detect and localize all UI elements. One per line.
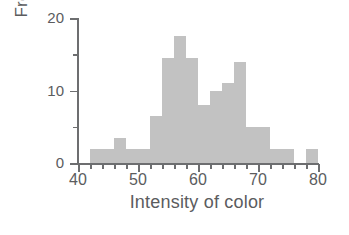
x-tick-minor: [150, 164, 152, 169]
histogram-bar: [306, 149, 318, 164]
histogram-bar: [162, 58, 174, 163]
y-tick-minor: [73, 54, 77, 56]
x-axis-label: Intensity of color: [62, 192, 332, 213]
x-tick-minor: [126, 164, 128, 169]
histogram-bar: [282, 149, 294, 164]
x-tick-minor: [174, 164, 176, 169]
y-tick-label: 20: [36, 10, 64, 25]
x-tick-minor: [90, 164, 92, 169]
histogram-bar: [246, 127, 258, 163]
histogram-bar: [270, 149, 282, 164]
histogram-bar: [258, 127, 270, 163]
x-tick-minor: [210, 164, 212, 169]
histogram-bar: [222, 83, 234, 163]
histogram-bars: [78, 18, 318, 163]
y-tick-major: [70, 163, 77, 165]
x-tick-minor: [222, 164, 224, 169]
y-tick-minor: [73, 127, 77, 129]
histogram-bar: [114, 138, 126, 163]
x-tick-label: 80: [298, 172, 338, 188]
histogram-bar: [234, 62, 246, 164]
histogram-figure: Frequency (%) 01020 4050607080 Intensity…: [0, 0, 349, 235]
histogram-bar: [126, 149, 138, 164]
histogram-bar: [186, 58, 198, 163]
y-tick-label: 10: [36, 83, 64, 98]
x-tick-label: 70: [238, 172, 278, 188]
x-tick-label: 60: [178, 172, 218, 188]
histogram-bar: [102, 149, 114, 164]
x-tick-minor: [102, 164, 104, 169]
histogram-bar: [210, 91, 222, 164]
y-tick-major: [70, 18, 77, 20]
y-tick-major: [70, 91, 77, 93]
histogram-bar: [174, 36, 186, 163]
x-tick-minor: [246, 164, 248, 169]
y-tick-label: 0: [36, 155, 64, 170]
histogram-bar: [150, 116, 162, 163]
x-tick-minor: [114, 164, 116, 169]
histogram-bar: [90, 149, 102, 164]
histogram-bar: [138, 149, 150, 164]
y-axis-label-container: Frequency (%): [2, 8, 36, 168]
x-tick-minor: [294, 164, 296, 169]
x-tick-minor: [282, 164, 284, 169]
histogram-bar: [198, 105, 210, 163]
x-tick-label: 50: [118, 172, 158, 188]
x-tick-minor: [162, 164, 164, 169]
x-tick-label: 40: [58, 172, 98, 188]
x-tick-minor: [186, 164, 188, 169]
x-tick-minor: [234, 164, 236, 169]
x-tick-minor: [306, 164, 308, 169]
x-tick-minor: [270, 164, 272, 169]
